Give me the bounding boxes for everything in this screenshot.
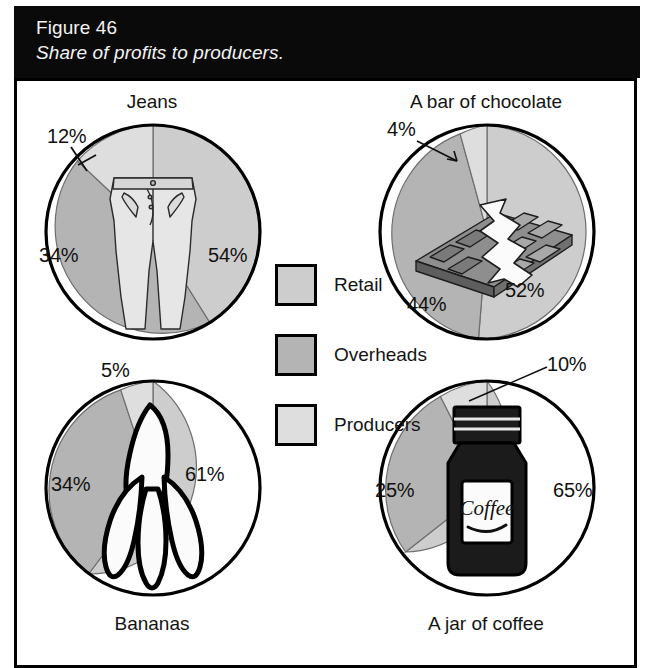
legend-label-retail: Retail xyxy=(334,274,383,296)
figure-number: Figure 46 xyxy=(36,15,284,40)
chart-chocolate-title: A bar of chocolate xyxy=(357,91,615,113)
legend-item-producers: Producers xyxy=(275,399,455,451)
figure-title: Share of profits to producers. xyxy=(36,40,284,66)
legend-swatch-overheads xyxy=(275,334,317,376)
chart-coffee-title: A jar of coffee xyxy=(357,613,615,635)
chart-bananas-producers-pct: 5% xyxy=(101,359,130,382)
legend-item-overheads: Overheads xyxy=(275,329,455,381)
legend-swatch-retail xyxy=(275,264,317,306)
svg-text:Coffee: Coffee xyxy=(460,496,515,520)
chart-coffee-producers-pct: 10% xyxy=(547,353,586,376)
chart-jeans-producers-pct: 12% xyxy=(47,125,86,148)
chart-bananas-overheads-pct: 34% xyxy=(51,473,90,496)
figure-caption-bar: Figure 46 Share of profits to producers. xyxy=(14,6,640,78)
chart-jeans: Jeans xyxy=(23,89,281,357)
chart-jeans-title: Jeans xyxy=(23,91,281,113)
chart-chocolate-retail-pct: 52% xyxy=(505,279,544,302)
legend-label-producers: Producers xyxy=(334,414,421,436)
pie-svg-jeans xyxy=(42,121,264,343)
caption-text-group: Figure 46 Share of profits to producers. xyxy=(36,15,284,66)
legend-swatch-producers xyxy=(275,404,317,446)
chart-bananas: Bananas 5% 34% 61% xyxy=(23,363,281,631)
chart-chocolate-producers-pct: 4% xyxy=(387,118,416,141)
chart-jeans-overheads-pct: 34% xyxy=(39,244,78,267)
chart-coffee-retail-pct: 65% xyxy=(553,479,592,502)
chart-bananas-title: Bananas xyxy=(23,613,281,635)
figure-panel: Jeans xyxy=(14,78,637,668)
chart-jeans-pie xyxy=(42,121,264,343)
chart-jeans-retail-pct: 54% xyxy=(208,244,247,267)
legend-label-overheads: Overheads xyxy=(334,344,427,366)
legend: Retail Overheads Producers xyxy=(275,259,455,469)
chart-coffee-overheads-pct: 25% xyxy=(375,479,414,502)
legend-item-retail: Retail xyxy=(275,259,455,311)
chart-bananas-retail-pct: 61% xyxy=(185,463,224,486)
